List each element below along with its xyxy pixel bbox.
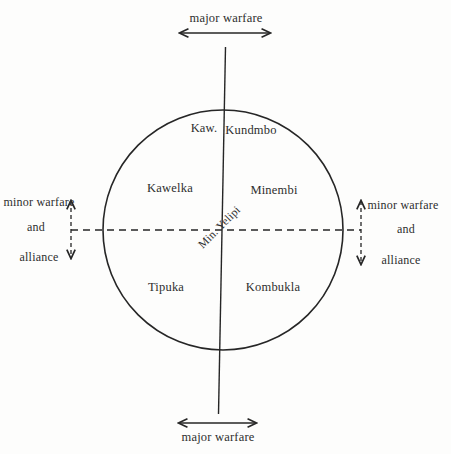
right-axis-label-line2: and xyxy=(397,222,415,237)
left-axis-label-line2: and xyxy=(27,220,45,235)
group-label-kundmbo: Kundmbo xyxy=(225,123,276,138)
group-label-kawelka: Kawelka xyxy=(147,181,193,196)
top-axis-label: major warfare xyxy=(189,11,262,26)
group-label-minembi: Minembi xyxy=(250,183,297,198)
left-axis-label-line1: minor warfare xyxy=(4,195,75,210)
left-axis-label-line3: alliance xyxy=(20,250,59,265)
diagram-canvas: major warfare major warfare minor warfar… xyxy=(0,0,451,454)
group-label-tipuka: Tipuka xyxy=(148,280,184,295)
group-label-kombukla: Kombukla xyxy=(246,280,300,295)
bottom-axis-label: major warfare xyxy=(181,430,254,445)
group-label-kaw: Kaw. xyxy=(191,121,218,136)
right-axis-label-line1: minor warfare xyxy=(368,198,439,213)
right-axis-label-line3: alliance xyxy=(382,253,421,268)
